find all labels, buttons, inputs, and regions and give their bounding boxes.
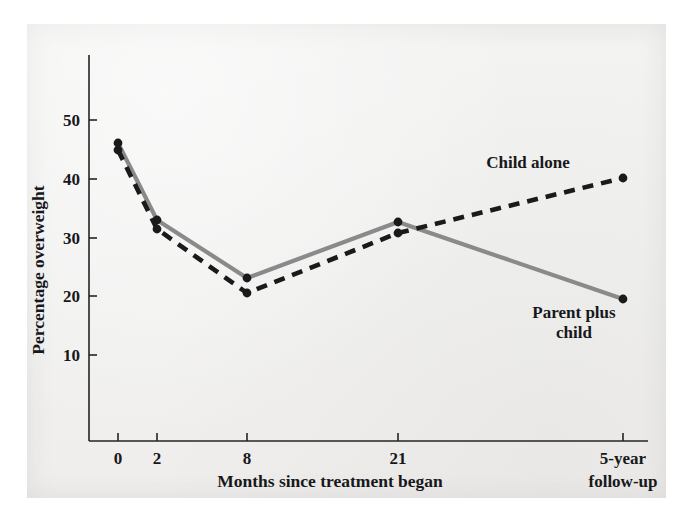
data-point-parent-5year — [619, 295, 628, 304]
data-point-child-0 — [114, 146, 123, 155]
line-chart: 50 40 30 20 10 Percentage overweight 0 2… — [0, 0, 685, 526]
y-axis-ticks — [89, 120, 97, 355]
data-point-child-2 — [153, 225, 162, 234]
y-tick-label-20: 20 — [63, 287, 80, 306]
y-axis-tick-labels: 50 40 30 20 10 — [63, 111, 80, 365]
x-tick-label-2: 2 — [153, 449, 162, 468]
data-point-parent-21 — [394, 218, 403, 227]
x-axis-title: Months since treatment began — [217, 471, 443, 491]
annotation-child-alone: Child alone — [486, 153, 570, 172]
y-tick-label-30: 30 — [63, 229, 80, 248]
x-tick-label-8: 8 — [243, 449, 252, 468]
axis-lines — [89, 55, 648, 441]
x-tick-label-21: 21 — [390, 449, 407, 468]
data-point-child-21 — [394, 229, 403, 238]
data-point-child-8 — [243, 289, 252, 298]
x-axis-ticks — [118, 433, 623, 441]
y-axis-title: Percentage overweight — [28, 185, 48, 354]
x-tick-label-0: 0 — [114, 449, 123, 468]
y-tick-label-40: 40 — [63, 170, 80, 189]
data-point-parent-8 — [243, 274, 252, 283]
annotation-parent-plus-child-line1: Parent plus — [532, 303, 616, 322]
y-tick-label-50: 50 — [63, 111, 80, 130]
chart-figure: 50 40 30 20 10 Percentage overweight 0 2… — [0, 0, 685, 526]
x-tick-label-5year-line2: follow-up — [589, 472, 658, 491]
y-tick-label-10: 10 — [63, 346, 80, 365]
data-point-child-5year — [619, 174, 628, 183]
annotation-parent-plus-child-line2: child — [556, 323, 592, 342]
x-tick-label-5year-line1: 5-year — [600, 449, 647, 468]
